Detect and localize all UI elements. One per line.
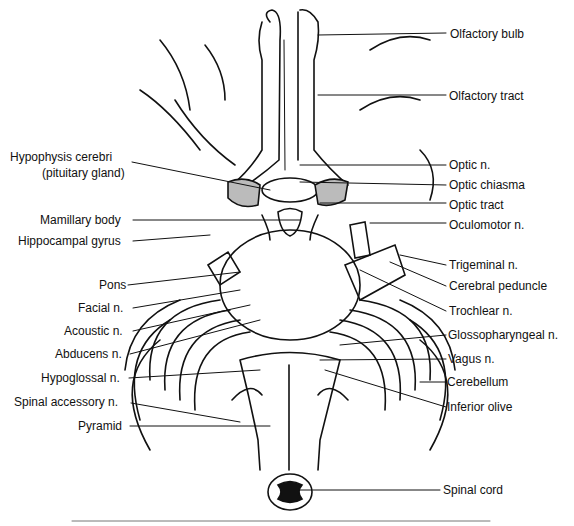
label-trochlear-n: Trochlear n.	[449, 304, 513, 318]
label-spinal-cord: Spinal cord	[443, 483, 503, 497]
label-facial-n: Facial n.	[78, 301, 123, 315]
label-olfactory-bulb: Olfactory bulb	[450, 27, 524, 41]
label-mamillary-body: Mamillary body	[40, 213, 121, 227]
label-cerebral-peduncle: Cerebral peduncle	[449, 279, 547, 293]
label-acoustic-n: Acoustic n.	[64, 324, 123, 338]
label-hypophysis-cerebri: Hypophysis cerebri	[10, 150, 112, 164]
label-hippocampal-gyrus: Hippocampal gyrus	[18, 234, 121, 248]
label-trigeminal-n: Trigeminal n.	[449, 258, 518, 272]
label-pituitary-gland: (pituitary gland)	[42, 166, 125, 180]
label-oculomotor-n: Oculomotor n.	[449, 218, 524, 232]
label-inferior-olive: Inferior olive	[447, 400, 512, 414]
label-hypoglossal-n: Hypoglossal n.	[41, 371, 120, 385]
label-optic-chiasma: Optic chiasma	[449, 178, 525, 192]
label-abducens-n: Abducens n.	[55, 347, 122, 361]
brainstem-diagram: Hypophysis cerebri (pituitary gland) Mam…	[0, 0, 574, 526]
label-cerebellum: Cerebellum	[447, 375, 508, 389]
label-pyramid: Pyramid	[78, 419, 122, 433]
label-optic-tract: Optic tract	[449, 198, 504, 212]
label-optic-n: Optic n.	[449, 158, 490, 172]
label-glossopharyngeal-n: Glossopharyngeal n.	[448, 328, 558, 342]
label-vagus-n: Vagus n.	[448, 352, 494, 366]
label-spinal-accessory-n: Spinal accessory n.	[14, 395, 118, 409]
label-olfactory-tract: Olfactory tract	[449, 89, 524, 103]
label-pons: Pons	[99, 278, 126, 292]
